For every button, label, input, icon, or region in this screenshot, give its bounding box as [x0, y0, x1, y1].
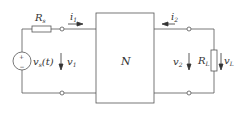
- i1-label: i1: [70, 11, 77, 23]
- terminal-2-prime: [187, 91, 191, 95]
- source-resistor: [32, 26, 51, 32]
- current-i2-arrow-icon: [162, 22, 168, 26]
- v1-label: v1: [67, 56, 76, 68]
- terminal-1-prime: [60, 91, 64, 95]
- i2-label: i2: [171, 11, 178, 23]
- rs-label: Rs: [34, 12, 46, 24]
- voltage-vL-arrow-icon: [219, 64, 223, 70]
- terminal-1: [60, 27, 64, 31]
- circuit-diagram: + − Rs i1 vs(t) v1 N i2 v2 RL vL: [0, 0, 247, 113]
- vs-label: vs(t): [33, 56, 54, 68]
- network-label: N: [120, 55, 131, 68]
- minus-sign: −: [20, 63, 25, 70]
- v2-label: v2: [173, 56, 183, 68]
- current-i1-arrow-icon: [77, 22, 83, 26]
- vl-label: vL: [224, 55, 234, 67]
- terminal-2: [187, 27, 191, 31]
- plus-sign: +: [19, 53, 24, 60]
- rl-label: RL: [197, 55, 210, 67]
- voltage-v2-arrow-icon: [187, 64, 191, 70]
- load-resistor: [211, 50, 217, 71]
- voltage-v1-arrow-icon: [59, 64, 63, 70]
